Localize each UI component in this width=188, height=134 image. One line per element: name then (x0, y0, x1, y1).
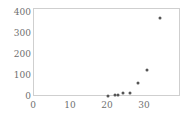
x-axis-tick-label: 0 (30, 101, 36, 110)
figure-caption (0, 125, 188, 134)
chart-figure: 0100200300400 0102030 (0, 0, 188, 134)
x-axis-tick-label: 20 (101, 101, 112, 110)
x-axis: 0102030 (0, 0, 188, 134)
x-axis-tick-label: 10 (64, 101, 75, 110)
x-axis-tick-label: 30 (138, 101, 149, 110)
